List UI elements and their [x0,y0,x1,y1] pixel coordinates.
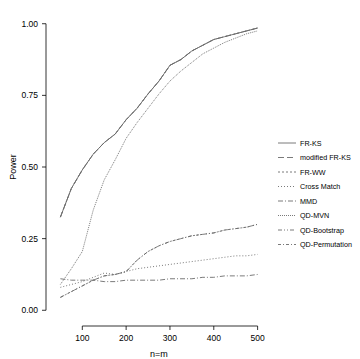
y-axis-tick-label: 0.00 [21,305,38,315]
series-line-modified-fr-ks [60,28,257,217]
x-axis-tick-label: 200 [119,333,133,343]
y-axis-tick-label: 1.00 [21,19,38,29]
x-axis-tick-label: 500 [251,333,265,343]
series-line-mmd [60,274,257,281]
legend-label-modified-fr-ks: modified FR-KS [300,153,351,162]
series-line-fr-ks [60,28,257,217]
legend-label-qd-permutation: QD-Permutation [300,240,352,249]
y-axis-title: Power [8,154,18,180]
legend-label-qd-mvn: QD-MVN [300,211,329,220]
legend-label-cross-match: Cross Match [300,182,340,191]
series-line-qd-bootstrap [60,224,257,297]
series-line-qd-mvn [60,31,257,285]
chart-root: 0.000.250.500.751.00100200300400500n=mPo… [0,0,360,359]
axes-group: 0.000.250.500.751.00100200300400500n=mPo… [8,19,265,359]
y-axis-tick-label: 0.25 [21,234,38,244]
power-vs-sample-size-line-chart: 0.000.250.500.751.00100200300400500n=mPo… [0,0,360,359]
x-axis-tick-label: 400 [207,333,221,343]
legend: FR-KSmodified FR-KSFR-WWCross MatchMMDQD… [278,139,352,250]
legend-label-fr-ks: FR-KS [300,139,322,148]
x-axis-tick-label: 100 [75,333,89,343]
legend-label-mmd: MMD [300,197,317,206]
x-axis-tick-label: 300 [163,333,177,343]
series-line-qd-permutation [60,224,257,297]
data-series-group [60,28,257,297]
legend-label-qd-bootstrap: QD-Bootstrap [300,226,344,235]
y-axis-tick-label: 0.50 [21,162,38,172]
legend-label-fr-ww: FR-WW [300,168,326,177]
x-axis-title: n=m [150,349,168,359]
series-line-fr-ww [60,28,257,217]
y-axis-tick-label: 0.75 [21,90,38,100]
